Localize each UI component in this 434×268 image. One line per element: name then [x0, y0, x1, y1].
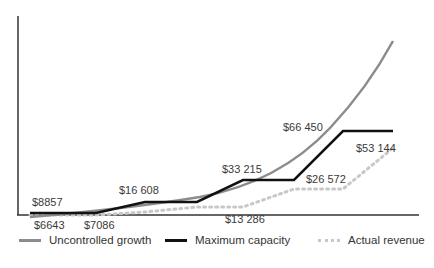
legend-swatch-dotted-line-icon [318, 239, 340, 242]
label-7086: $7086 [84, 219, 115, 231]
label-8857: $8857 [32, 196, 63, 208]
legend-label: Actual revenue [348, 234, 425, 246]
legend-swatch-black-line-icon [165, 239, 187, 242]
legend-swatch-gray-line-icon [19, 239, 41, 242]
label-53144: $53 144 [356, 142, 396, 154]
label-33215: $33 215 [222, 163, 262, 175]
label-26572: $26 572 [306, 173, 346, 185]
legend-item-uncontrolled-growth: Uncontrolled growth [19, 234, 151, 246]
legend-label: Uncontrolled growth [49, 234, 151, 246]
legend-label: Maximum capacity [195, 234, 290, 246]
series-uncontrolled-growth [30, 41, 393, 217]
label-16608: $16 608 [119, 184, 159, 196]
label-66450: $66 450 [283, 121, 323, 133]
legend-item-actual-revenue: Actual revenue [318, 234, 425, 246]
chart-legend: Uncontrolled growth Maximum capacity Act… [0, 234, 434, 254]
label-6643: $6643 [34, 219, 65, 231]
chart-canvas: $8857 $6643 $7086 $16 608 $13 286 $33 21… [0, 0, 434, 268]
label-13286: $13 286 [225, 213, 265, 225]
legend-item-maximum-capacity: Maximum capacity [165, 234, 290, 246]
series-maximum-capacity [30, 131, 393, 213]
